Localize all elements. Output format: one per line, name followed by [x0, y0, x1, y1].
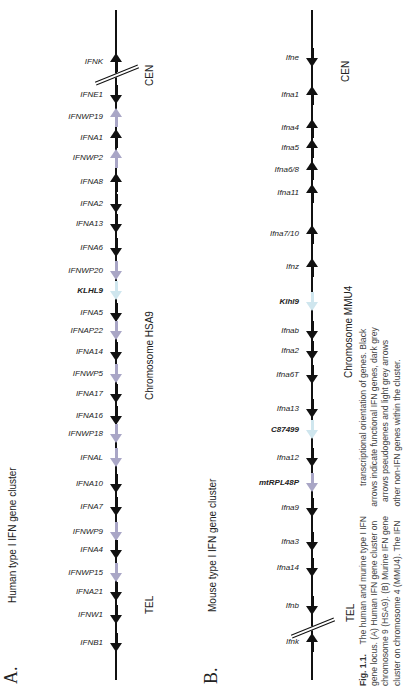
gene-label: Ifna4: [179, 123, 299, 132]
gene-label: Ifne: [179, 53, 299, 62]
panel-letter: A.: [1, 667, 22, 685]
cen-label: CEN: [340, 61, 351, 82]
arrow-up-icon: [306, 225, 318, 234]
panel-title: Mouse type I IFN gene cluster: [207, 479, 218, 612]
gene-label: IFNA1: [0, 133, 103, 142]
arrow-up-icon: [306, 633, 318, 642]
gene-label: IFNA6: [0, 243, 103, 252]
arrow-down-icon: [306, 508, 318, 517]
arrow-up-icon: [306, 139, 318, 148]
arrow-down-icon: [110, 352, 122, 361]
gene-label: IFNWP5: [0, 369, 103, 378]
arrow-down-icon: [306, 375, 318, 384]
arrow-down-icon: [110, 374, 122, 383]
gene-label: IFNA14: [0, 347, 103, 356]
gene-label: IFNA2: [0, 199, 103, 208]
arrow-down-icon: [110, 224, 122, 233]
gene-label: Ifnb: [179, 601, 299, 610]
gene-label: IFNK: [0, 57, 103, 66]
gene-label: IFNB1: [0, 638, 103, 647]
arrow-up-icon: [306, 258, 318, 267]
gene-label: IFNE1: [0, 90, 103, 99]
gene-label: Ifna2: [179, 346, 299, 355]
arrow-down-icon: [306, 302, 318, 311]
gene-label: Ifna1: [179, 90, 299, 99]
arrow-up-icon: [110, 129, 122, 138]
panel-title: Human type I IFN gene cluster: [7, 467, 18, 603]
arrow-down-icon: [306, 58, 318, 67]
arrow-up-icon: [306, 161, 318, 170]
gene-label: Ifna11: [179, 188, 299, 197]
gene-label: IFNAL: [0, 453, 103, 462]
arrow-up-icon: [306, 119, 318, 128]
arrow-down-icon: [110, 592, 122, 601]
gene-label: IFNA16: [0, 411, 103, 420]
chromosome-label: Chromosome MMU4: [343, 286, 354, 378]
gene-label: mtRPL48P: [179, 478, 299, 487]
arrow-up-icon: [110, 108, 122, 117]
arrow-down-icon: [110, 458, 122, 467]
gene-label: Ifna7/10: [179, 229, 299, 238]
gene-label: Klhl9: [179, 297, 299, 306]
arrow-down-icon: [306, 458, 318, 467]
arrow-down-icon: [110, 507, 122, 516]
gene-label: IFNA8: [0, 177, 103, 186]
arrow-down-icon: [110, 394, 122, 403]
arrow-down-icon: [110, 291, 122, 300]
arrow-down-icon: [110, 550, 122, 559]
gene-label: Ifnz: [179, 262, 299, 271]
gene-label: IFNA13: [0, 219, 103, 228]
caption-line: chromosome 9 (HSA9). (B) Murine IFN gene…: [380, 206, 391, 686]
arrow-down-icon: [306, 331, 318, 340]
gene-label: IFNWP20: [0, 266, 103, 275]
arrow-down-icon: [110, 615, 122, 624]
arrow-down-icon: [110, 573, 122, 582]
arrow-up-icon: [110, 173, 122, 182]
tel-label: TEL: [345, 604, 356, 622]
gene-label: Ifna12: [179, 453, 299, 462]
arrow-up-icon: [306, 184, 318, 193]
chromosome-label: Chromosome HSA9: [144, 311, 155, 400]
gene-label: IFNA17: [0, 389, 103, 398]
arrow-down-icon: [110, 331, 122, 340]
gene-label: C87499: [179, 425, 299, 434]
arrow-down-icon: [306, 351, 318, 360]
gene-label: Ifna3: [179, 537, 299, 546]
arrow-up-icon: [110, 53, 122, 62]
gene-label: IFNWP18: [0, 429, 103, 438]
gene-label: KLHL9: [0, 286, 103, 295]
gene-label: IFNA5: [0, 308, 103, 317]
gene-label: Ifna9: [179, 503, 299, 512]
gene-label: IFNAP22: [0, 326, 103, 335]
caption-label: Fig. 1.1.: [358, 654, 368, 686]
arrow-down-icon: [306, 542, 318, 551]
gene-label: Ifna6/8: [179, 165, 299, 174]
caption-line: Fig. 1.1. The human and murine type I IF…: [358, 206, 369, 686]
panel-letter: B.: [201, 667, 222, 684]
arrow-down-icon: [110, 271, 122, 280]
arrow-down-icon: [306, 606, 318, 615]
arrow-down-icon: [110, 248, 122, 257]
arrow-up-icon: [110, 149, 122, 158]
figure-caption: Fig. 1.1. The human and murine type I IF…: [358, 206, 403, 686]
arrow-up-icon: [306, 86, 318, 95]
gene-label: IFNW1: [0, 610, 103, 619]
cen-label: CEN: [144, 65, 155, 86]
gene-label: Ifna5: [179, 143, 299, 152]
arrow-down-icon: [110, 95, 122, 104]
gene-label: IFNWP19: [0, 112, 103, 121]
arrow-down-icon: [306, 409, 318, 418]
tel-label: TEL: [144, 596, 155, 614]
arrow-down-icon: [306, 483, 318, 492]
gene-label: Ifnk: [179, 637, 299, 646]
gene-label: Ifna6T: [179, 370, 299, 379]
gene-label: Ifna13: [179, 404, 299, 413]
gene-label: IFNWP2: [0, 153, 103, 162]
caption-line: cluster on chromosome 4 (MMU4). The IFNo…: [392, 206, 403, 686]
arrow-down-icon: [110, 643, 122, 652]
arrow-down-icon: [306, 568, 318, 577]
gene-label: Ifnab: [179, 326, 299, 335]
arrow-down-icon: [110, 204, 122, 213]
caption-line: gene locus. (A) Human IFN gene cluster o…: [369, 206, 380, 686]
arrow-down-icon: [306, 430, 318, 439]
